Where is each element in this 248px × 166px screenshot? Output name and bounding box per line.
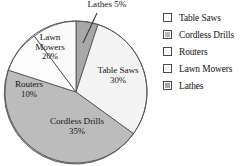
- slice-label-lawn-mowers: Lawn Mowers 20%: [22, 33, 78, 61]
- slice-label-lathes: Lathes 5%: [74, 0, 140, 10]
- legend-item-lawn-mowers[interactable]: Lawn Mowers: [163, 60, 247, 77]
- slice-label-table-saws-percent: 30%: [88, 76, 148, 85]
- slice-label-cordless-drills: Cordless Drills 35%: [30, 117, 124, 136]
- legend-label-cordless-drills: Cordless Drills: [179, 30, 234, 40]
- legend-label-table-saws: Table Saws: [179, 13, 221, 23]
- legend-label-routers: Routers: [179, 47, 207, 57]
- legend-label-lathes: Lathes: [179, 81, 203, 91]
- legend-swatch-table-saws: [163, 13, 172, 22]
- chart-legend: Table Saws Cordless Drills Routers Lawn …: [163, 9, 247, 94]
- slice-label-routers-percent: 10%: [0, 90, 58, 99]
- legend-swatch-lathes: [163, 81, 172, 90]
- pie-chart-figure: Lathes 5% Table Saws 30% Cordless Drills…: [0, 0, 248, 166]
- legend-label-lawn-mowers: Lawn Mowers: [179, 64, 232, 74]
- legend-item-table-saws[interactable]: Table Saws: [163, 9, 247, 26]
- legend-item-lathes[interactable]: Lathes: [163, 77, 247, 94]
- slice-label-table-saws: Table Saws 30%: [88, 66, 148, 85]
- slice-label-lawn-mowers-percent: 20%: [22, 52, 78, 61]
- legend-item-cordless-drills[interactable]: Cordless Drills: [163, 26, 247, 43]
- legend-swatch-routers: [163, 47, 172, 56]
- legend-swatch-lawn-mowers: [163, 64, 172, 73]
- slice-label-cordless-drills-percent: 35%: [30, 127, 124, 136]
- legend-swatch-cordless-drills: [163, 30, 172, 39]
- slice-label-routers: Routers 10%: [0, 80, 58, 99]
- legend-item-routers[interactable]: Routers: [163, 43, 247, 60]
